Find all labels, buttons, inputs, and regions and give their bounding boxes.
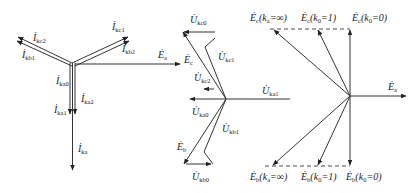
ukc1-arrow: [205, 38, 226, 99]
label-ika1: İka1: [53, 104, 67, 116]
ec-1-arrow: [318, 30, 350, 96]
voltage-phasor-panel: U̇kc0 Ėc U̇kc1 U̇kc2 U̇ka1 U̇ka0 U̇kb1 Ė…: [176, 14, 290, 183]
label-ukc2: U̇kc2: [194, 72, 211, 84]
ikb2-arrow: [75, 41, 129, 66]
current-phasor-panel: İkc2 İkb1 İkc1 İkb2 İka0 İka2 İka1 İka Ė…: [17, 21, 180, 170]
eb-arrow: [184, 99, 226, 164]
label-eb-0: Ėb(k0=0): [345, 171, 382, 183]
label-ukb1: U̇kb1: [222, 123, 239, 135]
label-ika0: İka0: [55, 75, 69, 87]
phasor-diagram: İkc2 İkb1 İkc1 İkb2 İka0 İka2 İka1 İka Ė…: [0, 0, 418, 193]
label-ikb1: İkb1: [21, 49, 35, 61]
label-ukc0: U̇kc0: [190, 14, 207, 26]
locus-phasor-panel: Ėc(ka=∞) Ėc(k0=1) Ėc(k0=0) Ėb(ka=∞) Ėb(k…: [249, 12, 406, 183]
label-ikb2: İkb2: [121, 43, 135, 55]
label-eb-1: Ėb(k0=1): [300, 171, 337, 183]
label-ukb0: U̇kb0: [192, 171, 209, 183]
label-eb: Ėb: [176, 141, 186, 153]
label-ukc1: U̇kc1: [218, 51, 235, 63]
label-ea-1: Ėa: [157, 49, 167, 61]
label-ikc2: İkc2: [32, 32, 46, 44]
label-ec-inf: Ėc(ka=∞): [249, 12, 288, 24]
eb-1-arrow: [318, 96, 350, 165]
label-ec-0: Ėc(k0=0): [351, 12, 388, 24]
label-ika2: İka2: [80, 93, 94, 105]
label-uka0: U̇ka0: [192, 106, 209, 118]
label-eb-inf: Ėb(ka=∞): [249, 171, 288, 183]
label-uka1: U̇ka1: [262, 85, 279, 97]
label-ea-3: Ėa: [387, 81, 397, 93]
label-ika: İka: [77, 143, 88, 155]
ikc1-arrow: [72, 37, 128, 63]
label-ec: Ėc: [183, 54, 193, 66]
eb-inf-arrow: [273, 96, 350, 165]
label-ikc1: İkc1: [111, 21, 125, 33]
label-ec-1: Ėc(k0=1): [300, 12, 337, 24]
ec-inf-arrow: [274, 30, 350, 96]
